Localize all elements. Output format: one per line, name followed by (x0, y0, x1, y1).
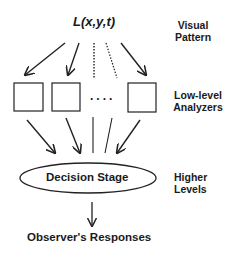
decision-stage-label: Decision Stage (46, 171, 128, 183)
level-label-line2: Pattern (170, 31, 216, 43)
arrow-to-analyzer-1 (25, 43, 65, 75)
level-label-line2: Levels (174, 183, 216, 195)
analyzer-to-decision-arrows (27, 117, 140, 153)
arrow-from-analyzer-2 (66, 118, 80, 153)
level-label-line1: Visual (170, 19, 216, 31)
level-label-visual-pattern: Visual Pattern (170, 19, 216, 43)
dotted-line-diagonal (106, 43, 117, 78)
analyzer-box-n (128, 83, 156, 112)
analyzer-box-1 (14, 83, 43, 111)
observer-responses-label: Observer's Responses (27, 231, 151, 243)
analyzer-box-2 (52, 83, 80, 111)
level-label-line1: Low-level (168, 89, 228, 101)
level-label-line2: Analyzers (168, 101, 228, 113)
level-label-line1: Higher (174, 171, 216, 183)
line-diagonal-lower (105, 118, 112, 153)
input-formula: L(x,y,t) (73, 14, 115, 29)
arrow-to-analyzer-n (121, 43, 146, 75)
level-label-low-level-analyzers: Low-level Analyzers (168, 89, 228, 113)
arrow-from-analyzer-n (117, 120, 140, 153)
input-to-analyzer-arrows (25, 43, 146, 78)
analyzer-boxes (14, 83, 156, 112)
ellipsis-dots: .... (90, 90, 115, 102)
arrow-to-analyzer-2 (68, 43, 79, 75)
level-label-higher-levels: Higher Levels (174, 171, 216, 195)
arrow-from-analyzer-1 (27, 120, 55, 153)
